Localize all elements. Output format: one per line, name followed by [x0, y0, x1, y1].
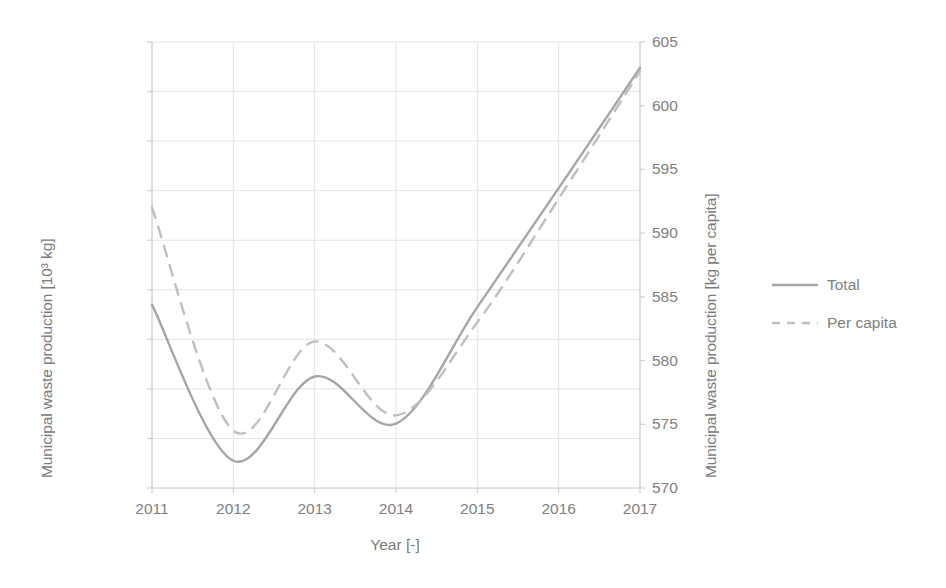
chart-legend: Total Per capita — [772, 266, 942, 342]
legend-label-per-capita: Per capita — [827, 314, 897, 332]
legend-item-per-capita: Per capita — [772, 304, 942, 342]
legend-swatch-dashed-icon — [772, 317, 818, 329]
legend-swatch-solid-icon — [772, 279, 818, 291]
legend-item-total: Total — [772, 266, 942, 304]
legend-label-total: Total — [827, 276, 860, 294]
chart-figure: Municipal waste production [10³ kg] Muni… — [0, 0, 946, 588]
